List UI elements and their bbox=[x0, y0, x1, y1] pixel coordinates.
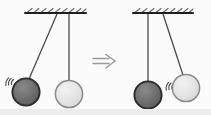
string-dark-left bbox=[29, 14, 57, 79]
ceiling-hatching-left bbox=[27, 9, 86, 13]
dark-pendulum-ball bbox=[12, 78, 39, 105]
left-panel-before bbox=[6, 9, 86, 108]
motion-arcs-dark-left bbox=[6, 78, 14, 86]
pendulum-figure bbox=[0, 0, 211, 115]
ceiling-hatching-right bbox=[135, 9, 193, 13]
string-light-right bbox=[163, 14, 183, 75]
light-pendulum-ball bbox=[172, 74, 199, 101]
dark-pendulum-ball bbox=[134, 81, 161, 108]
pendulum-diagram-canvas bbox=[0, 0, 211, 115]
right-panel-after bbox=[133, 9, 200, 109]
light-pendulum-ball bbox=[55, 80, 82, 107]
implies-arrow bbox=[93, 55, 115, 69]
